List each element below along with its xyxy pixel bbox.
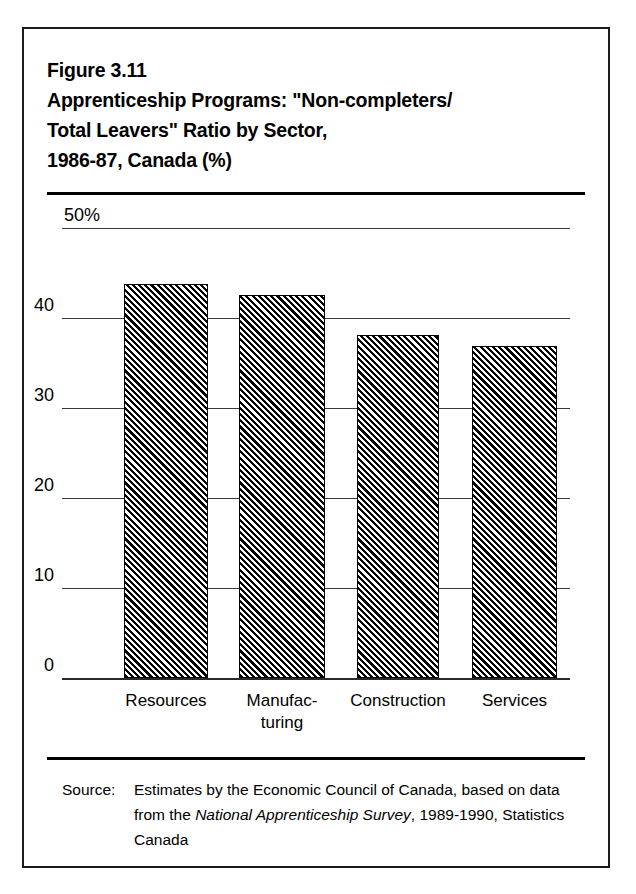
source-separator-rule [47,757,585,760]
x-axis-label-manufacturing: Manufac- turing [217,690,347,734]
source-text-italic: National Apprenticeship Survey [195,806,411,823]
gridline-50 [62,228,570,229]
source-label: Source: [62,777,134,802]
y-axis-tick-label-50: 50% [64,206,144,224]
x-axis-label-construction: Construction [335,690,461,712]
source-text: Estimates by the Economic Council of Can… [134,777,592,852]
bar-services [472,346,557,678]
bar-resources [124,284,208,678]
y-axis-tick-label-20: 20 [24,476,54,494]
x-axis-label-resources: Resources [102,690,230,712]
chart-plot-area: 01020304050%ResourcesManufac- turingCons… [24,29,608,866]
bar-manufacturing [239,295,325,678]
y-axis-tick-label-10: 10 [24,566,54,584]
gridline-0 [62,678,570,680]
y-axis-tick-label-0: 0 [24,656,54,674]
y-axis-tick-label-40: 40 [24,296,54,314]
y-axis-tick-label-30: 30 [24,386,54,404]
x-axis-label-services: Services [450,690,579,712]
bar-construction [357,335,439,678]
figure-frame: Figure 3.11 Apprenticeship Programs: "No… [22,27,610,868]
source-note: Source: Estimates by the Economic Counci… [62,777,592,852]
